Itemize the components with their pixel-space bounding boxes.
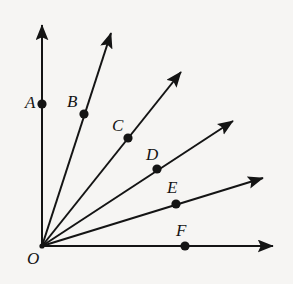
origin-label: O (27, 250, 39, 267)
point-b-label: B (67, 93, 77, 110)
point-d-dot (152, 164, 161, 173)
point-a-label: A (25, 94, 35, 111)
point-f-dot (180, 241, 189, 250)
point-c-label: C (112, 117, 123, 134)
point-a-dot (37, 99, 46, 108)
ray-ob (42, 33, 111, 246)
point-d-label: D (146, 146, 158, 163)
geometry-figure: ABCDEFO (0, 0, 293, 284)
point-e-label: E (167, 179, 177, 196)
point-b-dot (79, 109, 88, 118)
point-f-label: F (176, 222, 186, 239)
ray-oe (42, 178, 263, 246)
point-c-dot (123, 133, 132, 142)
rays-group (42, 25, 273, 246)
rays-diagram-canvas (0, 0, 293, 284)
ray-oc (42, 72, 181, 246)
ray-od (42, 121, 233, 246)
origin-vertex-dot (39, 243, 44, 248)
point-e-dot (171, 199, 180, 208)
